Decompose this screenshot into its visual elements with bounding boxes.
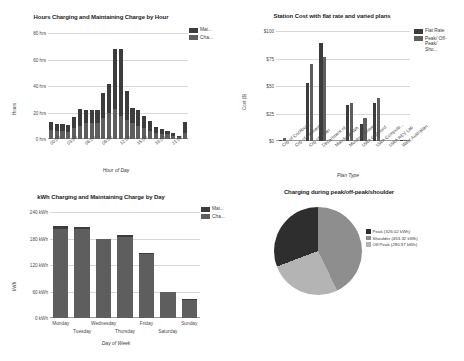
y-tick: 0 hrs [36,137,46,142]
bar-slot[interactable] [136,212,157,318]
bar-segment-charging [183,133,187,139]
legend-item[interactable]: Off Peak (280.97 kWh) [366,242,418,247]
bar-segment-charging [113,109,117,139]
bar-segment-charging [139,254,154,318]
legend-label: Peak/ Off- Peak/ Sho... [425,36,451,53]
legend-item[interactable]: Mai... [189,27,213,33]
bar-segment-charging [53,229,68,318]
bar-slot[interactable] [179,212,200,318]
x-axis-label-plan-type: Plan Type [272,172,424,178]
bar-segment-charging [119,116,123,139]
legend-item[interactable]: Peak (326.02 kWh) [366,229,418,234]
bar-series-hours [48,33,188,139]
legend-swatch-maintaining [189,28,198,33]
x-tick: Thursday [115,329,135,334]
chart-panel-hours-by-hour: Hours Charging and Maintaining Charge by… [0,0,232,181]
legend-item[interactable]: Peak/ Off- Peak/ Sho... [414,36,462,53]
bar-segment-charging [95,123,99,139]
legend-label: Cha... [200,35,213,41]
bar-group[interactable] [383,31,396,141]
bar-group[interactable] [289,31,302,141]
legend-item[interactable]: Cha... [201,214,225,220]
y-tick: 40 hrs [33,84,46,89]
bar-segment-charging [101,118,105,139]
bar-group[interactable] [330,31,343,141]
bar-stack [96,212,111,318]
bar-stack [160,33,164,139]
chart-title-station-cost: Station Cost with flat rate and varied p… [248,13,416,19]
y-tick: $100 [264,29,274,34]
y-tick: $75 [266,56,274,61]
x-tick: Tuesday [73,329,91,334]
bar-segment-maintaining [55,124,59,131]
legend-label: Flat Rate [425,28,444,34]
bar-slot[interactable] [114,212,135,318]
x-axis-label-day-of-week: Day of Week [30,340,202,346]
bar-stack [113,33,117,139]
bar-slot[interactable] [157,212,178,318]
legend-label: Cha... [212,214,225,220]
bar-segment-maintaining [90,110,94,123]
bar-segment-maintaining [130,108,134,123]
legend-item[interactable]: Cha... [189,35,213,41]
legend-hours-by-hour: Mai... Cha... [189,27,213,42]
bar-segment-maintaining [107,84,111,113]
bar-flat-rate [279,140,282,141]
bar-stack [148,33,152,139]
bar-stack [183,33,187,139]
legend-peak-pie: Peak (326.02 kWh) Shoulder (453.32 kWh) … [366,229,418,249]
legend-swatch-offpeak [366,242,371,247]
legend-item[interactable]: Mai... [201,206,225,212]
legend-item[interactable]: Shoulder (453.32 kWh) [366,236,418,241]
bar-segment-maintaining [95,110,99,123]
legend-item[interactable]: Flat Rate [414,28,462,34]
bar-stack [49,33,53,139]
pie-chart-peak-offpeak-shoulder[interactable] [274,207,362,295]
legend-label: Peak (326.02 kWh) [373,229,411,234]
x-tick: Monday [52,321,69,326]
y-axis-label-kwh: kWh [12,282,17,291]
bar-slot[interactable] [93,212,114,318]
bar-segment-maintaining [113,49,117,109]
bar-segment-maintaining [148,121,152,131]
bar-stack [53,212,68,318]
legend-swatch-peak [366,229,371,234]
bar-stack [136,33,140,139]
bar-stack [182,212,197,318]
y-tick: 0 kWh [35,316,48,321]
bar-segment-charging [96,239,111,318]
bar-slot[interactable] [71,212,92,318]
bar-stack [160,212,175,318]
y-tick: 20 hrs [33,110,46,115]
x-tick: Friday [140,321,153,326]
legend-swatch-shoulder [366,236,371,241]
bar-segment-charging [160,292,175,318]
bar-stack [72,33,76,139]
bar-segment-charging [74,229,89,318]
bar-stack [84,33,88,139]
chart-panel-station-cost: Station Cost with flat rate and varied p… [232,0,464,181]
legend-kwh-by-day: Mai... Cha... [201,206,225,221]
y-tick: 60 kWh [32,289,48,294]
legend-swatch-flat-rate [414,29,423,34]
bar-segment-maintaining [84,110,88,123]
dashboard-grid: Hours Charging and Maintaining Charge by… [0,0,464,361]
legend-swatch-charging [189,35,198,40]
bar-segment-maintaining [72,117,76,128]
y-tick: 240 kWh [30,210,48,215]
y-axis-label-cost: Cost ($) [242,94,247,110]
legend-station-cost: Flat Rate Peak/ Off- Peak/ Sho... [414,28,462,54]
bar-slot[interactable] [50,212,71,318]
bar-slot[interactable] [182,33,188,139]
bar-group[interactable] [356,31,369,141]
bar-segment-maintaining [66,125,70,132]
bar-stack [95,33,99,139]
legend-label: Mai... [200,27,212,33]
chart-panel-peak-pie: Charging during peak/off-peak/shoulder P… [232,181,464,361]
bar-stack [154,33,158,139]
bar-segment-maintaining [183,122,187,133]
y-tick: $0 [269,139,274,144]
bar-group[interactable] [276,31,289,141]
bar-stack [55,33,59,139]
bar-segment-charging [84,123,88,139]
